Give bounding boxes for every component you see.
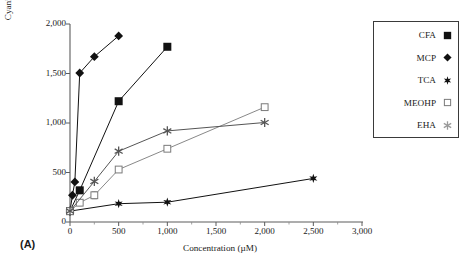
legend-entry-label: EHA (417, 120, 436, 130)
data-point-marker (443, 54, 451, 62)
legend-entry-tca[interactable]: TCA (374, 69, 460, 91)
data-point-marker (261, 104, 268, 111)
x-tick-label: 2,500 (293, 226, 333, 236)
data-point-marker (444, 100, 450, 106)
legend-entry-eha[interactable]: EHA (374, 114, 460, 136)
data-point-marker (164, 145, 171, 152)
legend-entry-meohp[interactable]: MEOHP (374, 92, 460, 114)
series-line (70, 107, 265, 211)
data-point-marker (115, 97, 123, 105)
x-tick-label: 2,000 (245, 226, 285, 236)
series-line (70, 47, 167, 211)
open-square-icon (442, 97, 453, 108)
x-tick-label: 0 (50, 226, 90, 236)
legend-entry-cfa[interactable]: CFA (374, 24, 460, 46)
x-axis-tick-labels: 05001,0001,5002,0002,5003,000 (0, 226, 471, 242)
series-mcp (66, 31, 123, 215)
data-point-marker (115, 166, 122, 173)
x-axis-title: Concentration (µM) (130, 243, 310, 253)
data-point-marker (444, 76, 451, 84)
legend-entry-mcp[interactable]: MCP (374, 47, 460, 69)
data-point-marker (70, 178, 79, 187)
data-point-marker (91, 192, 98, 199)
data-point-marker (444, 121, 451, 129)
filled-star-icon (442, 75, 453, 86)
legend-box: CFAMCPTCAMEOHPEHA (373, 21, 459, 138)
series-cfa (66, 43, 171, 215)
x-tick-label: 1,000 (147, 226, 187, 236)
series-line (70, 178, 313, 211)
x-tick-label: 3,000 (342, 226, 382, 236)
data-point-marker (163, 43, 171, 51)
legend-entry-label: MEOHP (404, 98, 436, 108)
legend-entry-label: CFA (419, 30, 436, 40)
x-tick-label: 1,500 (196, 226, 236, 236)
filled-square-icon (442, 30, 453, 41)
figure-panel-a: Cyanide-insensitive palmitoyl CoA oxidat… (0, 0, 471, 270)
x-tick-label: 500 (99, 226, 139, 236)
asterisk-icon (442, 120, 453, 131)
filled-diamond-icon (442, 52, 453, 63)
data-point-marker (76, 186, 84, 194)
data-point-marker (444, 31, 451, 38)
series-tca (66, 174, 317, 216)
legend-entry-label: MCP (417, 53, 436, 63)
panel-label: (A) (20, 238, 35, 250)
legend-entry-label: TCA (418, 75, 436, 85)
